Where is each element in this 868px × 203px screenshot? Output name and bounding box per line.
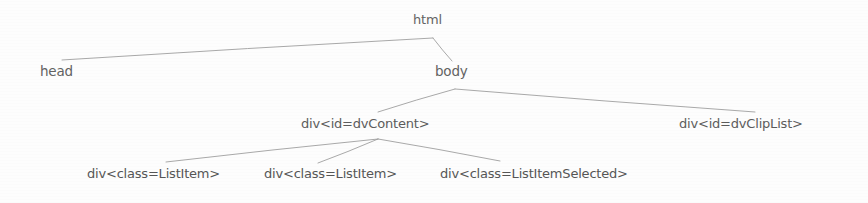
tree-edge-html-to-body xyxy=(433,38,452,61)
tree-node-div-dvcliplist: div<id=dvClipList> xyxy=(679,116,803,131)
tree-edge-dvContent-to-listItemSelected xyxy=(378,139,500,161)
tree-edge-dvContent-to-listItem2 xyxy=(318,139,378,163)
tree-node-div-dvcontent: div<id=dvContent> xyxy=(301,116,429,131)
tree-edge-body-to-dvContent xyxy=(378,89,455,112)
tree-node-head: head xyxy=(40,63,73,79)
tree-node-div-listitemselected: div<class=ListItemSelected> xyxy=(440,166,628,181)
dom-tree-diagram: html head body div<id=dvContent> div<id=… xyxy=(0,0,868,203)
tree-edge-dvContent-to-listItem1 xyxy=(166,139,378,162)
tree-node-div-listitem-2: div<class=ListItem> xyxy=(264,166,397,181)
tree-node-html: html xyxy=(413,12,442,27)
tree-edge-body-to-dvClipList xyxy=(455,89,755,112)
tree-edge-html-to-head xyxy=(62,38,433,60)
tree-node-div-listitem-1: div<class=ListItem> xyxy=(87,166,220,181)
tree-node-body: body xyxy=(435,63,468,79)
